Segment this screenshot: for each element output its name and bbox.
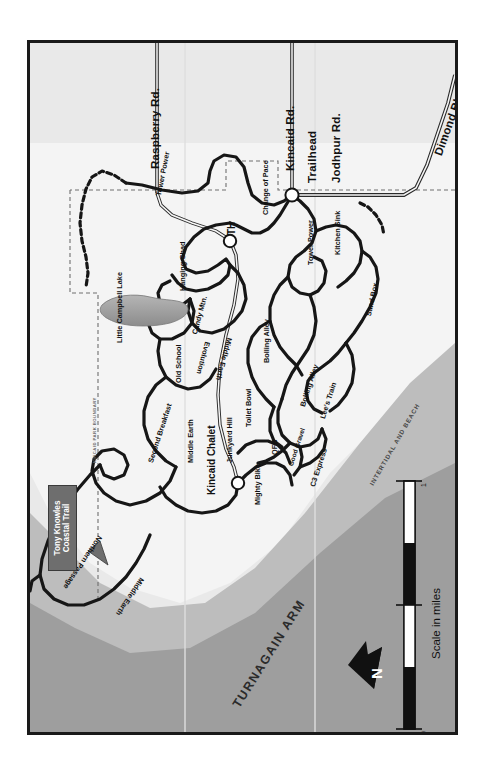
map-frame: Raspberry Rd. Kincaid Rd. Jodhpur Rd. Di… — [27, 40, 458, 735]
callout-tony-knowles-coastal-trail: Tony Knowles Coastal Trail — [48, 485, 77, 571]
callout-line-1: Tony Knowles — [53, 491, 62, 565]
map-canvas — [30, 43, 455, 732]
trailhead-marker[interactable] — [285, 188, 298, 201]
chalet-marker[interactable] — [232, 477, 244, 489]
callout-line-2: Coastal Trail — [62, 491, 71, 565]
compass-north-label: N — [368, 668, 385, 679]
th-marker[interactable] — [224, 235, 236, 247]
trail-map-page: Raspberry Rd. Kincaid Rd. Jodhpur Rd. Di… — [0, 0, 483, 770]
